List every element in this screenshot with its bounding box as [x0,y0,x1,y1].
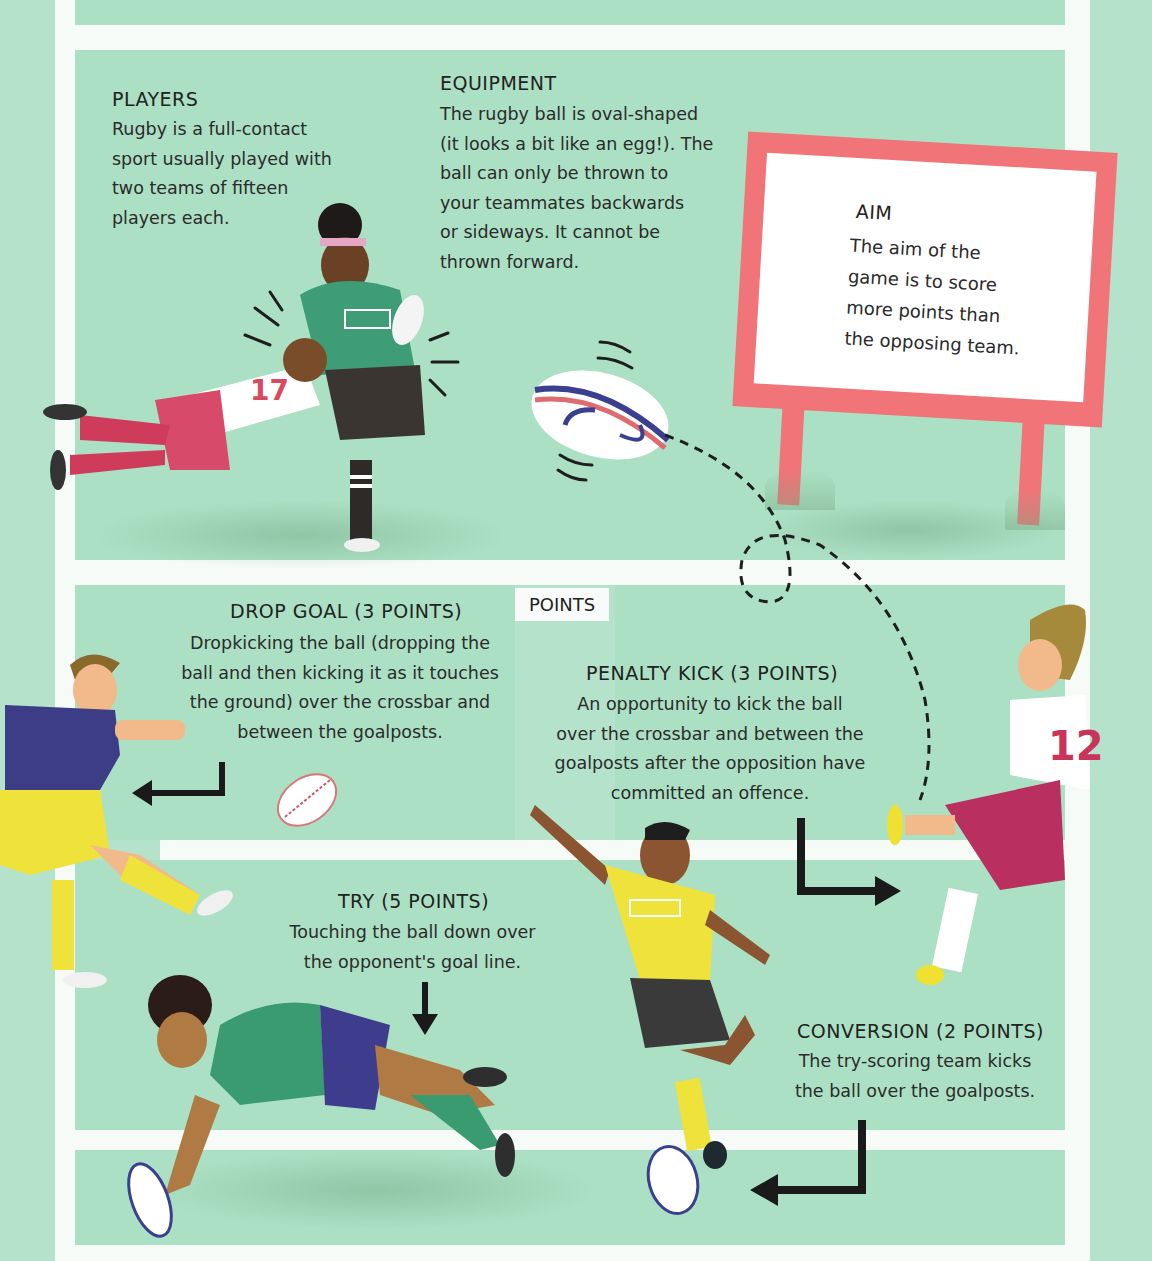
rugby-ball-icon [270,765,345,835]
arrow-right-icon [795,818,905,913]
try-heading: TRY (5 POINTS) [338,890,489,912]
conversion-line: the ball over the goalposts. [775,1077,1055,1107]
try-scorer-illustration [110,955,530,1245]
penalty-kicker-illustration: 12 [880,590,1152,1000]
penalty-kick-heading: PENALTY KICK (3 POINTS) [586,662,838,684]
penalty-kick-line: An opportunity to kick the ball [530,690,890,720]
conversion-line: The try-scoring team kicks [775,1047,1055,1077]
drop-goal-kicker-illustration [0,645,250,995]
points-section-tag: POINTS [515,588,609,621]
arrow-left-icon [748,1120,873,1210]
conversion-text: The try-scoring team kicks the ball over… [775,1047,1055,1106]
arrow-left-icon [130,760,230,810]
jersey-number-12: 12 [1048,723,1104,769]
penalty-kick-line: goalposts after the opposition have [530,749,890,779]
penalty-kick-text: An opportunity to kick the ball over the… [530,690,890,808]
drop-goal-heading: DROP GOAL (3 POINTS) [230,600,462,622]
conversion-heading: CONVERSION (2 POINTS) [797,1020,1044,1042]
try-line: Touching the ball down over [270,918,555,948]
penalty-kick-line: over the crossbar and between the [530,720,890,750]
